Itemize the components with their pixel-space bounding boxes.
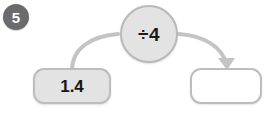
function-machine-diagram: 5 ÷4 1.4 [0, 0, 273, 118]
input-value-label: 1.4 [60, 78, 84, 95]
input-to-operation-arrow [72, 34, 118, 70]
operation-label: ÷4 [138, 25, 160, 44]
input-value-box[interactable]: 1.4 [33, 68, 111, 104]
output-answer-box[interactable] [190, 68, 262, 104]
operation-circle: ÷4 [120, 5, 178, 63]
